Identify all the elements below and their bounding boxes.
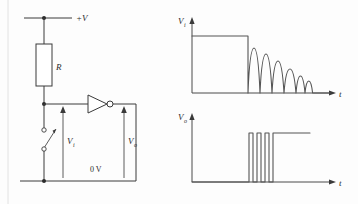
output-waveform-chart: V o t <box>178 112 342 188</box>
output-chart-xlabel: t <box>339 178 342 188</box>
inverter-triangle <box>88 95 107 113</box>
input-voltage-arrowhead <box>60 106 66 113</box>
ground-node-dot <box>42 179 46 183</box>
input-chart-y-arrowhead <box>189 17 194 24</box>
output-voltage-sublabel: o <box>134 142 137 148</box>
input-chart-ylabel-sub: i <box>184 22 186 28</box>
switch-terminal-top[interactable] <box>42 128 46 132</box>
supply-label: +V <box>76 13 89 23</box>
resistor-body <box>36 44 52 86</box>
switch-terminal-bottom[interactable] <box>42 147 46 151</box>
resistor-label: R <box>55 62 62 72</box>
input-waveform-chart: V i t <box>178 16 342 99</box>
output-chart-y-arrowhead <box>189 113 194 120</box>
circuit-diagram: +V R <box>20 13 137 183</box>
output-chart-ylabel-sub: o <box>184 118 187 124</box>
figure-canvas: +V R <box>0 0 358 204</box>
input-voltage-sublabel: i <box>73 142 75 148</box>
input-waveform-trace <box>192 36 330 93</box>
figure-root: +V R <box>0 0 358 204</box>
output-waveform-trace <box>192 133 310 182</box>
output-chart-x-arrowhead <box>329 179 336 184</box>
output-voltage-arrowhead <box>121 106 127 113</box>
input-chart-xlabel: t <box>339 89 342 99</box>
inverter-bubble-icon <box>107 101 113 107</box>
ground-label: 0 V <box>90 165 102 174</box>
